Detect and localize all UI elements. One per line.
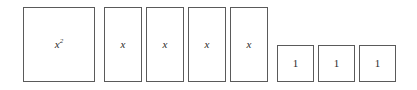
- unit-tile-3-label: 1: [375, 58, 381, 69]
- unit-tile-1-label: 1: [293, 58, 299, 69]
- x-tile-1: x: [104, 7, 142, 82]
- x-squared-tile-label: x2: [55, 39, 63, 50]
- unit-tile-3: 1: [359, 45, 396, 82]
- x-squared-exponent: 2: [60, 37, 64, 45]
- x-tile-4-label: x: [247, 39, 252, 50]
- x-tile-3-label: x: [205, 39, 210, 50]
- x-tile-1-label: x: [121, 39, 126, 50]
- algebra-tiles-diagram: x2 x x x x 1 1 1: [0, 0, 417, 90]
- unit-tile-1: 1: [277, 45, 314, 82]
- x-tile-3: x: [188, 7, 226, 82]
- x-tile-2-label: x: [163, 39, 168, 50]
- x-tile-2: x: [146, 7, 184, 82]
- unit-tile-2: 1: [318, 45, 355, 82]
- x-tile-4: x: [230, 7, 268, 82]
- unit-tile-2-label: 1: [334, 58, 340, 69]
- x-squared-tile: x2: [23, 7, 95, 82]
